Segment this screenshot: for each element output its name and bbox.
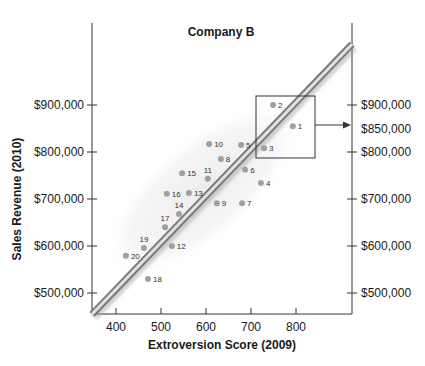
- data-point-label: 3: [269, 144, 274, 153]
- data-point-2: [270, 102, 276, 108]
- data-point-11: [205, 176, 211, 182]
- data-point-13: [186, 190, 192, 196]
- data-point-19: [141, 245, 147, 251]
- data-point-label: 13: [194, 189, 203, 198]
- left-y-ticks: $500,000$600,000$700,000$800,000$900,000: [34, 98, 97, 300]
- right-y-tick-label: $700,000: [361, 192, 411, 206]
- data-point-3: [261, 145, 267, 151]
- data-point-label: 7: [247, 199, 252, 208]
- left-y-tick-label: $900,000: [34, 98, 84, 112]
- data-point-label: 4: [266, 179, 271, 188]
- chart-title: Company B: [188, 25, 255, 39]
- right-y-tick-label: $900,000: [361, 98, 411, 112]
- data-point-14: [176, 211, 182, 217]
- data-point-18: [145, 276, 151, 282]
- data-point-label: 6: [250, 166, 255, 175]
- data-point-label: 16: [172, 190, 181, 199]
- data-point-label: 1: [298, 122, 303, 131]
- regression-line-core: [92, 44, 352, 314]
- data-point-label: 9: [222, 199, 227, 208]
- data-point-9: [214, 200, 220, 206]
- data-point-label: 19: [139, 235, 148, 244]
- data-point-7: [239, 200, 245, 206]
- data-point-label: 8: [226, 155, 231, 164]
- x-tick-label: 500: [151, 320, 171, 334]
- x-tick-label: 600: [196, 320, 216, 334]
- x-tick-label: 700: [241, 320, 261, 334]
- right-y-tick-label: $600,000: [361, 239, 411, 253]
- regression-line-shadow: [94, 47, 354, 317]
- data-point-label: 2: [278, 101, 283, 110]
- data-point-label: 17: [161, 214, 170, 223]
- left-y-tick-label: $800,000: [34, 145, 84, 159]
- data-point-8: [218, 156, 224, 162]
- data-point-4: [258, 180, 264, 186]
- data-point-label: 20: [131, 252, 140, 261]
- data-point-label: 12: [177, 242, 186, 251]
- regression-line: [92, 44, 354, 317]
- right-y-ticks: $500,000$600,000$700,000$800,000$900,000…: [347, 98, 411, 300]
- right-y-tick-label: $800,000: [361, 145, 411, 159]
- data-point-10: [206, 141, 212, 147]
- data-point-label: 15: [187, 169, 196, 178]
- data-point-15: [179, 170, 185, 176]
- x-ticks: 400500600700800: [106, 308, 306, 334]
- right-y-highlight-label: $850,000: [361, 122, 411, 136]
- data-point-label: 5: [246, 141, 251, 150]
- data-point-17: [162, 224, 168, 230]
- left-y-tick-label: $500,000: [34, 286, 84, 300]
- x-tick-label: 400: [106, 320, 126, 334]
- y-axis-title: Sales Revenue (2010): [10, 138, 24, 261]
- data-point-label: 18: [153, 275, 162, 284]
- data-point-label: 11: [204, 166, 213, 175]
- data-point-6: [242, 167, 248, 173]
- arrow-head-icon: [343, 122, 351, 129]
- data-point-label: 10: [214, 140, 223, 149]
- data-point-16: [164, 191, 170, 197]
- data-point-1: [290, 123, 296, 129]
- scatter-chart: 400500600700800 $500,000$600,000$700,000…: [0, 0, 425, 366]
- x-tick-label: 800: [286, 320, 306, 334]
- x-axis-title: Extroversion Score (2009): [148, 338, 296, 352]
- data-point-12: [169, 243, 175, 249]
- data-point-label: 14: [175, 201, 184, 210]
- right-y-tick-label: $500,000: [361, 286, 411, 300]
- data-point-20: [123, 253, 129, 259]
- data-point-5: [238, 142, 244, 148]
- left-y-tick-label: $600,000: [34, 239, 84, 253]
- left-y-tick-label: $700,000: [34, 192, 84, 206]
